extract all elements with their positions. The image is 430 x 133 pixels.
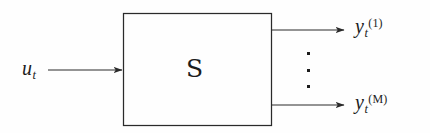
ellipsis-dot (307, 52, 310, 55)
system-block-label: S (186, 56, 203, 81)
ellipsis-dot (307, 85, 310, 88)
input-signal-subscript: t (33, 68, 37, 82)
output-signal-label-1: yt(1) (355, 16, 383, 39)
input-signal-base: u (22, 57, 32, 79)
output-signal-1-superscript: (1) (368, 16, 383, 30)
ellipsis-dot (307, 69, 310, 72)
output-signal-1-base: y (355, 15, 364, 37)
input-signal-label: ut (22, 58, 36, 81)
vertical-ellipsis-icon (303, 52, 313, 88)
output-signal-m-base: y (355, 91, 364, 113)
system-block-label-text: S (186, 54, 203, 83)
output-signal-label-m: yt(M) (355, 92, 387, 115)
output-signal-m-superscript: (M) (368, 92, 387, 106)
diagram-canvas: ut S yt(1) yt(M) (0, 0, 430, 133)
